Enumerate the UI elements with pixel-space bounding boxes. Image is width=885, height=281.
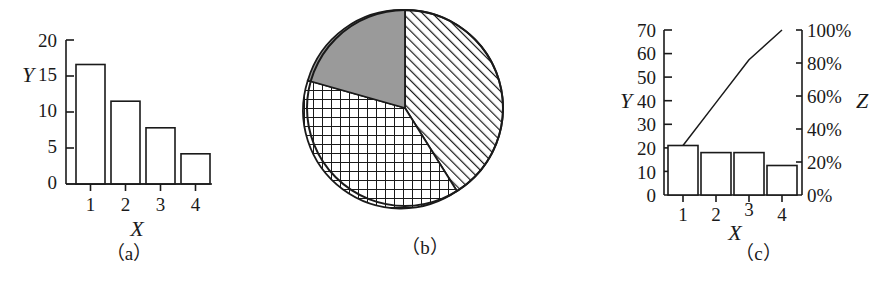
x-tick-label-a-3: 3 xyxy=(156,194,166,215)
panel-caption-b: （b） xyxy=(250,232,600,259)
z-axis-label-c: Z xyxy=(856,88,869,113)
y-tick-label-a-5: 5 xyxy=(48,136,58,157)
y-tick-label-a-15: 15 xyxy=(38,64,57,85)
x-axis-label-a: X xyxy=(129,216,145,240)
bar-a-4 xyxy=(181,154,210,184)
figure-container: 20 15 10 5 0 Y xyxy=(0,0,885,281)
panel-caption-c: （c） xyxy=(616,238,885,265)
z-tick-label-c-0: 0% xyxy=(807,185,833,206)
y-tick-label-c-20: 20 xyxy=(637,138,656,159)
bar-c-1 xyxy=(668,146,698,196)
bar-a-3 xyxy=(146,128,175,184)
y-tick-label-c-30: 30 xyxy=(637,114,656,135)
chart-panel-b: （b） xyxy=(250,0,600,281)
y-tick-label-a-0: 0 xyxy=(48,172,58,193)
bar-c-3 xyxy=(734,153,764,195)
bar-a-2 xyxy=(111,101,140,184)
z-tick-label-c-60: 60% xyxy=(807,86,842,107)
y-tick-label-c-60: 60 xyxy=(637,43,656,64)
z-tick-label-c-80: 80% xyxy=(807,53,842,74)
y-tick-label-c-70: 70 xyxy=(637,20,656,41)
x-tick-label-c-4: 4 xyxy=(777,204,787,225)
x-axis-label-c: X xyxy=(727,220,743,240)
cumulative-percent-line xyxy=(683,30,782,146)
x-tick-label-c-3: 3 xyxy=(744,199,754,220)
x-tick-label-a-2: 2 xyxy=(121,194,131,215)
x-tick-label-c-1: 1 xyxy=(678,204,688,225)
y-tick-label-a-20: 20 xyxy=(38,30,57,51)
x-tick-label-a-1: 1 xyxy=(86,194,96,215)
y-tick-label-c-40: 40 xyxy=(637,91,656,112)
z-tick-label-c-40: 40% xyxy=(807,119,842,140)
pareto-chart-c: 70 60 50 40 30 20 10 0 Y xyxy=(600,0,885,240)
bar-a-1 xyxy=(76,65,105,185)
bar-c-2 xyxy=(701,153,731,195)
pie-chart-b xyxy=(250,0,600,232)
y-tick-label-c-50: 50 xyxy=(637,67,656,88)
z-tick-label-c-20: 20% xyxy=(807,152,842,173)
y-tick-label-c-10: 10 xyxy=(637,162,656,183)
y-tick-label-c-0: 0 xyxy=(647,185,657,206)
y-tick-label-a-10: 10 xyxy=(38,100,57,121)
x-tick-label-c-2: 2 xyxy=(711,204,721,225)
y-axis-label-a: Y xyxy=(22,62,37,87)
chart-panel-a: 20 15 10 5 0 Y xyxy=(0,0,250,281)
chart-panel-c: 70 60 50 40 30 20 10 0 Y xyxy=(600,0,885,281)
bar-chart-a: 20 15 10 5 0 Y xyxy=(0,0,250,240)
z-tick-label-c-100: 100% xyxy=(807,20,852,41)
bar-c-4 xyxy=(767,166,797,196)
y-axis-label-c: Y xyxy=(620,88,635,113)
x-tick-label-a-4: 4 xyxy=(191,194,201,215)
panel-caption-a: （a） xyxy=(4,238,254,265)
